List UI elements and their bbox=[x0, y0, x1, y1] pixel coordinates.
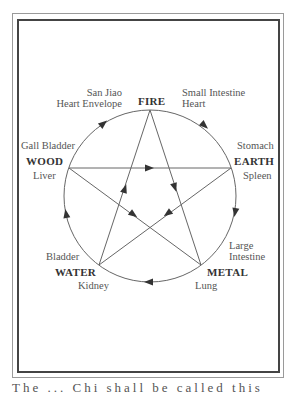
label-stomach: Stomach bbox=[237, 140, 274, 151]
element-wood: WOOD bbox=[26, 155, 63, 167]
figure-caption: The ... Chi shall be called this bbox=[12, 380, 263, 396]
label-liver: Liver bbox=[33, 170, 56, 181]
label-san-jiao: San Jiao bbox=[87, 87, 122, 98]
element-water: WATER bbox=[55, 266, 96, 278]
element-earth: EARTH bbox=[234, 155, 274, 167]
arrow-wood-earth bbox=[145, 165, 154, 172]
arrow-metal-water bbox=[144, 279, 153, 286]
element-fire: FIRE bbox=[138, 95, 165, 107]
generating-arrows bbox=[62, 118, 239, 286]
pentagram bbox=[69, 110, 231, 265]
arrow-fire-metal bbox=[170, 182, 179, 193]
generating-cycle-circle bbox=[64, 110, 236, 282]
element-metal: METAL bbox=[207, 266, 248, 278]
label-heart-envelope: Heart Envelope bbox=[56, 98, 122, 109]
label-gall-bladder: Gall Bladder bbox=[21, 140, 75, 151]
label-kidney: Kidney bbox=[78, 280, 109, 291]
arrow-earth-metal bbox=[231, 207, 239, 217]
arrow-water-fire bbox=[120, 183, 129, 194]
arrow-wood-fire bbox=[98, 118, 109, 129]
label-intestine: Intestine bbox=[229, 251, 265, 262]
arrow-water-wood bbox=[62, 208, 70, 218]
label-bladder: Bladder bbox=[46, 251, 79, 262]
label-heart: Heart bbox=[182, 98, 205, 109]
label-large: Large bbox=[229, 240, 253, 251]
label-lung: Lung bbox=[195, 280, 217, 291]
label-spleen: Spleen bbox=[243, 170, 272, 181]
label-small-intestine: Small Intestine bbox=[182, 87, 245, 98]
